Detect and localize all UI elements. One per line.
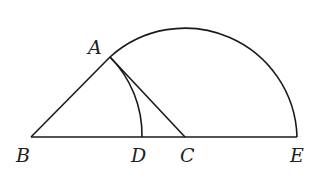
label-a: A [86, 36, 102, 58]
segment-ab [31, 57, 110, 137]
label-c: C [180, 144, 195, 166]
geometry-diagram: A B D C E [0, 0, 318, 185]
label-d: D [130, 144, 146, 166]
label-b: B [15, 144, 30, 166]
arc-ad [110, 57, 142, 137]
label-e: E [289, 144, 304, 166]
arc-ae [110, 28, 297, 137]
